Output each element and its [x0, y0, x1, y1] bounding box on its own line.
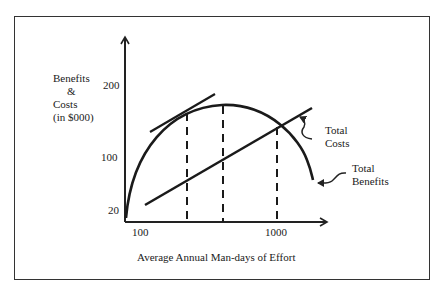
x-tick-1000: 1000 — [265, 226, 287, 238]
costs-pointer — [300, 117, 312, 139]
y-tick-20: 20 — [108, 204, 119, 216]
total-costs-label: Total Costs — [325, 124, 349, 150]
total-benefits-label: Total Benefits — [352, 162, 389, 188]
label-line: Total — [352, 162, 389, 175]
y-tick-200: 200 — [103, 79, 120, 91]
tangent-line — [150, 94, 215, 132]
x-tick-100: 100 — [132, 226, 149, 238]
x-axis-label: Average Annual Man-days of Effort — [137, 251, 295, 264]
total-costs-line — [145, 108, 312, 205]
label-line: Benefits — [352, 175, 389, 188]
ylabel-line: Costs — [53, 98, 94, 111]
label-line: Total — [325, 124, 349, 137]
benefits-pointer — [318, 173, 346, 183]
ylabel-line: Benefits — [53, 72, 94, 85]
label-line: Costs — [325, 137, 349, 150]
ylabel-line: (in $000) — [53, 111, 94, 124]
y-tick-100: 100 — [101, 151, 118, 163]
ylabel-line: & — [53, 85, 94, 98]
y-axis-label: Benefits & Costs (in $000) — [53, 72, 94, 124]
